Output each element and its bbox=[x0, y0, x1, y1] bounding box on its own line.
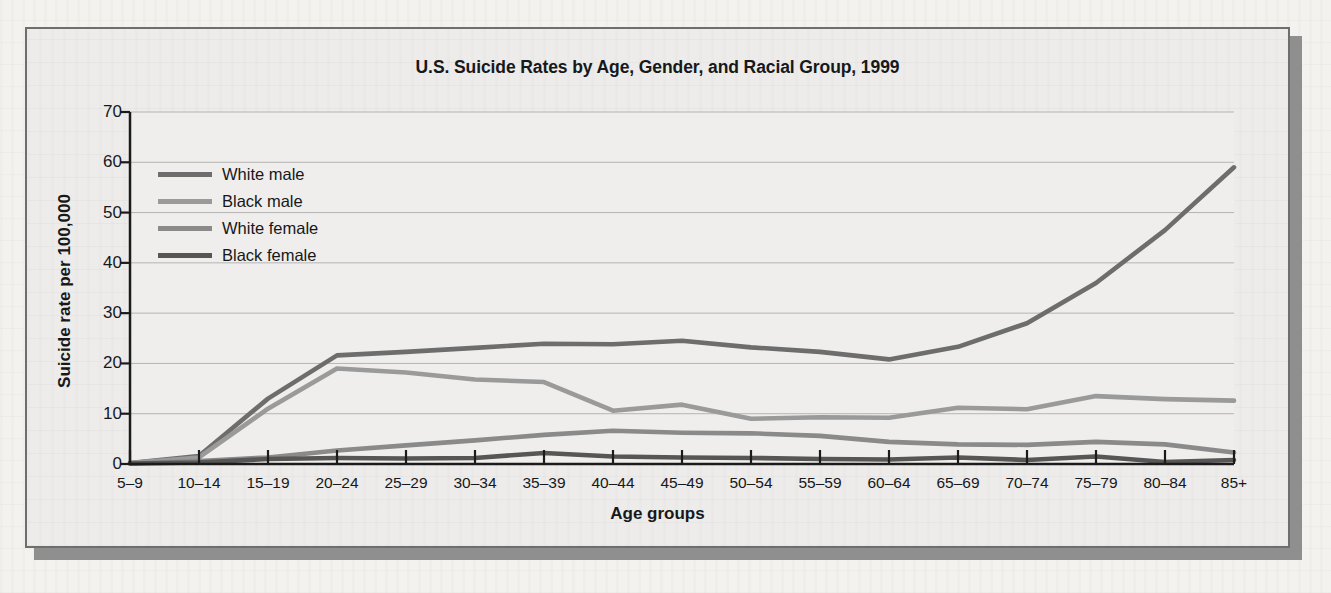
y-tick-label: 70 bbox=[82, 102, 122, 122]
legend-label: Black female bbox=[222, 246, 316, 265]
x-tick-label: 60–64 bbox=[867, 474, 910, 492]
x-tick-label: 5–9 bbox=[117, 474, 143, 492]
chart-legend: White maleBlack maleWhite femaleBlack fe… bbox=[158, 161, 368, 269]
x-tick-label: 20–24 bbox=[315, 474, 358, 492]
y-tick-label: 60 bbox=[82, 152, 122, 172]
legend-label: Black male bbox=[222, 192, 303, 211]
legend-item-white-female[interactable]: White female bbox=[158, 215, 368, 242]
y-tick-label: 40 bbox=[82, 253, 122, 273]
x-tick-label: 45–49 bbox=[660, 474, 703, 492]
x-tick-label: 80–84 bbox=[1143, 474, 1186, 492]
legend-swatch-icon bbox=[158, 199, 212, 204]
x-tick-label: 10–14 bbox=[177, 474, 220, 492]
x-tick-label: 50–54 bbox=[729, 474, 772, 492]
legend-item-black-female[interactable]: Black female bbox=[158, 242, 368, 269]
legend-swatch-icon bbox=[158, 172, 212, 177]
x-axis-tick-labels: 5–910–1415–1920–2425–2930–3435–3940–4445… bbox=[130, 474, 1234, 500]
chart-title: U.S. Suicide Rates by Age, Gender, and R… bbox=[27, 57, 1288, 78]
x-tick-label: 15–19 bbox=[246, 474, 289, 492]
x-tick-label: 65–69 bbox=[936, 474, 979, 492]
x-tick-label: 35–39 bbox=[522, 474, 565, 492]
legend-label: White female bbox=[222, 219, 318, 238]
legend-label: White male bbox=[222, 165, 305, 184]
x-tick-label: 30–34 bbox=[453, 474, 496, 492]
x-tick-label: 25–29 bbox=[384, 474, 427, 492]
x-axis-title: Age groups bbox=[27, 504, 1288, 524]
x-tick-label: 85+ bbox=[1221, 474, 1247, 492]
x-tick-label: 70–74 bbox=[1005, 474, 1048, 492]
y-tick-label: 30 bbox=[82, 303, 122, 323]
x-tick-label: 75–79 bbox=[1074, 474, 1117, 492]
y-tick-label: 20 bbox=[82, 353, 122, 373]
y-tick-label: 0 bbox=[82, 454, 122, 474]
y-axis-title: Suicide rate per 100,000 bbox=[55, 126, 75, 456]
page-background: U.S. Suicide Rates by Age, Gender, and R… bbox=[0, 0, 1331, 593]
y-tick-label: 10 bbox=[82, 404, 122, 424]
legend-item-black-male[interactable]: Black male bbox=[158, 188, 368, 215]
x-tick-label: 55–59 bbox=[798, 474, 841, 492]
y-axis-tick-labels: 010203040506070 bbox=[78, 112, 122, 464]
chart-figure: U.S. Suicide Rates by Age, Gender, and R… bbox=[25, 27, 1290, 548]
legend-swatch-icon bbox=[158, 226, 212, 231]
legend-item-white-male[interactable]: White male bbox=[158, 161, 368, 188]
legend-swatch-icon bbox=[158, 253, 212, 258]
x-tick-label: 40–44 bbox=[591, 474, 634, 492]
y-tick-label: 50 bbox=[82, 203, 122, 223]
